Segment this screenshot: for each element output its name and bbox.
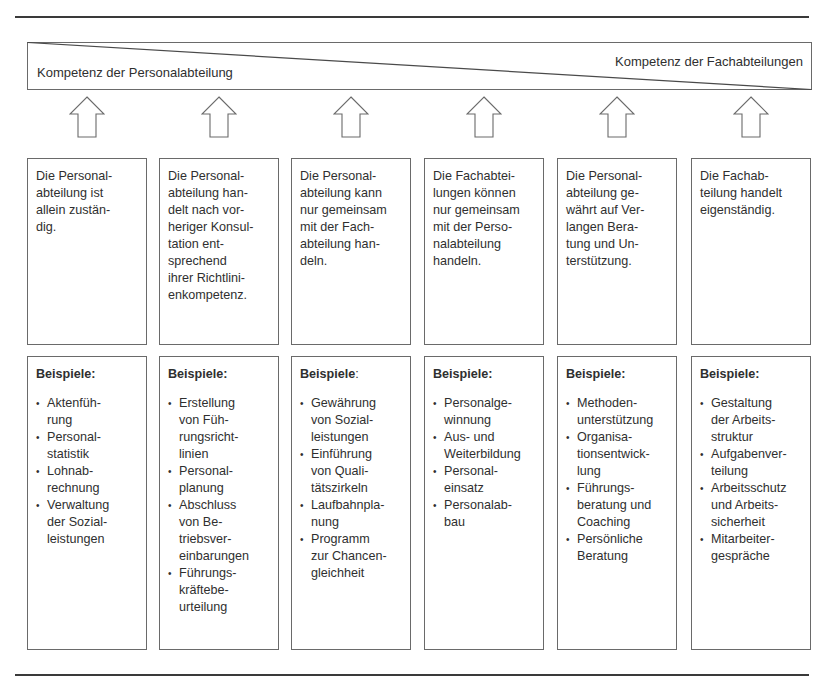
description-text-line: abteilung han- [168, 185, 271, 202]
example-text-line: unterstützung [577, 412, 669, 429]
description-text-line: Die Fachab- [700, 168, 803, 185]
examples-list: •Gewährungvon Sozial-leistungen•Einführu… [300, 395, 403, 582]
examples-heading-colon: : [223, 367, 227, 381]
bullet-icon: • [36, 429, 40, 446]
example-text-line: von Füh- [179, 412, 271, 429]
example-text-line: triebsver- [179, 531, 271, 548]
examples-heading-text: Beispiele [433, 367, 488, 381]
example-text-line: Lohnab- [47, 463, 139, 480]
up-arrow-icon [333, 96, 369, 138]
bullet-icon: • [36, 395, 40, 412]
bottom-rule [15, 674, 809, 676]
example-text-line: struktur [711, 429, 803, 446]
example-text-line: Persönliche [577, 531, 669, 548]
example-text-line: planung [179, 480, 271, 497]
example-text-line: Personal- [47, 429, 139, 446]
example-list-item: •Personal-planung [168, 463, 271, 497]
examples-heading: Beispiele: [566, 366, 669, 383]
responsibility-description-box: Die Personal-abteilung ge-währt auf Ver-… [557, 158, 677, 345]
description-text-line: enkompetenz. [168, 287, 271, 304]
bullet-icon: • [300, 531, 304, 548]
bullet-icon: • [300, 497, 304, 514]
top-rule [15, 16, 809, 18]
description-text-line: delt nach vor- [168, 202, 271, 219]
description-text-line: Die Fachabtei- [433, 168, 536, 185]
example-text-line: von Sozial- [311, 412, 403, 429]
examples-heading: Beispiele: [168, 366, 271, 383]
responsibility-description-box: Die Personal-abteilung istallein zustän-… [27, 158, 147, 345]
example-list-item: •Erstellungvon Füh-rungsricht-linien [168, 395, 271, 463]
example-text-line: von Be- [179, 514, 271, 531]
examples-list: •Methoden-unterstützung•Organisa-tionsen… [566, 395, 669, 565]
description-text-line: währt auf Ver- [566, 202, 669, 219]
example-text-line: sicherheit [711, 514, 803, 531]
examples-heading-colon: : [755, 367, 759, 381]
description-text-line: handeln. [433, 253, 536, 270]
example-text-line: rechnung [47, 480, 139, 497]
example-text-line: linien [179, 446, 271, 463]
bullet-icon: • [566, 429, 570, 446]
up-arrow-icon [599, 96, 635, 138]
examples-box: Beispiele:•Personalge-winnung•Aus- undWe… [424, 356, 544, 650]
example-text-line: Programm [311, 531, 403, 548]
example-list-item: •Mitarbeiter-gespräche [700, 531, 803, 565]
example-list-item: •Gewährungvon Sozial-leistungen [300, 395, 403, 446]
description-text-line: dig. [36, 219, 139, 236]
fachabteilungen-competence-label: Kompetenz der Fachabteilungen [615, 54, 803, 69]
example-text-line: Arbeitsschutz [711, 480, 803, 497]
examples-heading-text: Beispiele [566, 367, 621, 381]
example-text-line: rung [47, 412, 139, 429]
example-text-line: rungsricht- [179, 429, 271, 446]
example-text-line: tionsentwick- [577, 446, 669, 463]
bullet-icon: • [433, 497, 437, 514]
personalabteilung-competence-label: Kompetenz der Personalabteilung [37, 65, 233, 80]
examples-list: •Erstellungvon Füh-rungsricht-linien•Per… [168, 395, 271, 616]
examples-heading: Beispiele: [36, 366, 139, 383]
examples-heading-colon: : [621, 367, 625, 381]
example-text-line: winnung [444, 412, 536, 429]
example-text-line: beratung und [577, 497, 669, 514]
example-text-line: Beratung [577, 548, 669, 565]
description-text-line: allein zustän- [36, 202, 139, 219]
example-list-item: •Abschlussvon Be-triebsver-einbarungen [168, 497, 271, 565]
description-text-line: nur gemeinsam [300, 202, 403, 219]
example-text-line: Laufbahnpla- [311, 497, 403, 514]
description-text-line: Die Personal- [566, 168, 669, 185]
example-list-item: •Führungs-beratung undCoaching [566, 480, 669, 531]
examples-list: •Aktenfüh-rung•Personal-statistik•Lohnab… [36, 395, 139, 548]
responsibility-description-box: Die Personal-abteilung kannnur gemeinsam… [291, 158, 411, 345]
bullet-icon: • [433, 429, 437, 446]
bullet-icon: • [566, 395, 570, 412]
example-text-line: Einführung [311, 446, 403, 463]
description-text-line: langen Bera- [566, 219, 669, 236]
example-text-line: lung [577, 463, 669, 480]
example-text-line: Personal- [179, 463, 271, 480]
example-list-item: •Aufgabenver-teilung [700, 446, 803, 480]
bullet-icon: • [36, 497, 40, 514]
example-list-item: •Aktenfüh-rung [36, 395, 139, 429]
description-text-line: eigenständig. [700, 202, 803, 219]
example-text-line: teilung [711, 463, 803, 480]
example-list-item: •Personal-statistik [36, 429, 139, 463]
example-text-line: urteilung [179, 599, 271, 616]
example-text-line: Mitarbeiter- [711, 531, 803, 548]
example-text-line: Aufgabenver- [711, 446, 803, 463]
example-list-item: •Führungs-kräftebe-urteilung [168, 565, 271, 616]
examples-heading-text: Beispiele [36, 367, 91, 381]
example-text-line: einsatz [444, 480, 536, 497]
example-list-item: •Laufbahnpla-nung [300, 497, 403, 531]
examples-heading-text: Beispiele [300, 367, 355, 381]
example-list-item: •Methoden-unterstützung [566, 395, 669, 429]
examples-box: Beispiele:•Aktenfüh-rung•Personal-statis… [27, 356, 147, 650]
up-arrow-icon [201, 96, 237, 138]
example-list-item: •Einführungvon Quali-tätszirkeln [300, 446, 403, 497]
description-text-line: abteilung han- [300, 236, 403, 253]
examples-heading-text: Beispiele [168, 367, 223, 381]
bullet-icon: • [566, 531, 570, 548]
description-text-line: heriger Konsul- [168, 219, 271, 236]
bullet-icon: • [700, 395, 704, 412]
description-text-line: abteilung ge- [566, 185, 669, 202]
example-text-line: bau [444, 514, 536, 531]
bullet-icon: • [433, 395, 437, 412]
examples-list: •Personalge-winnung•Aus- undWeiterbildun… [433, 395, 536, 531]
